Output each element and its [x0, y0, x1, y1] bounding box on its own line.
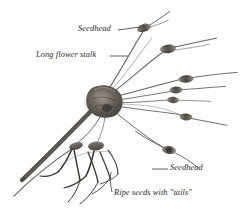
figure-canvas: Seedhead Long flower stalk Seedhead Ripe… — [0, 0, 240, 212]
label-seedhead-top: Seedhead — [78, 25, 111, 33]
label-ripe-seeds: Ripe seeds with "tails" — [114, 189, 192, 197]
label-long-flower-stalk: Long flower stalk — [36, 51, 96, 59]
plant-illustration — [0, 0, 240, 212]
label-seedhead-bottom: Seedhead — [170, 164, 203, 172]
